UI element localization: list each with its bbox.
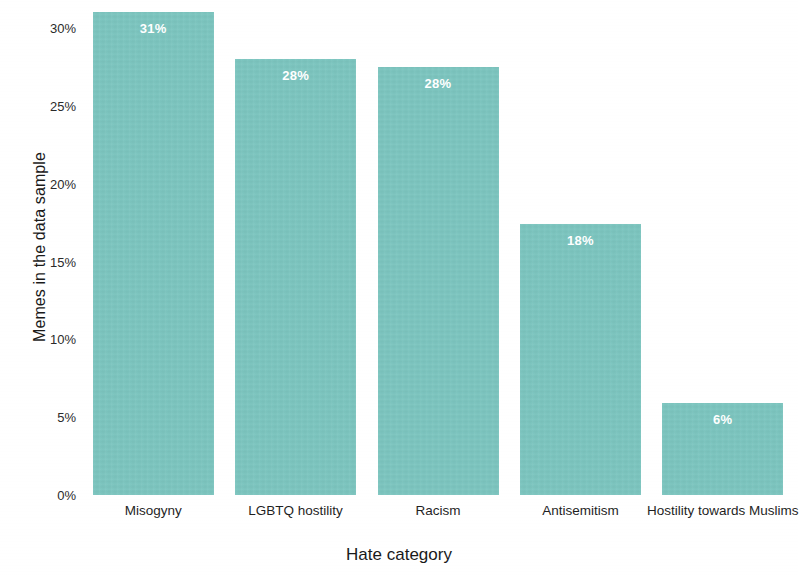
y-tick-label: 25%: [30, 98, 76, 113]
bar-value-label: 18%: [520, 233, 641, 248]
bar[interactable]: [378, 67, 499, 495]
x-axis-title: Hate category: [0, 545, 798, 565]
y-tick-label: 10%: [30, 332, 76, 347]
plot-area: 31%28%28%18%6%: [82, 0, 794, 495]
x-category-label: LGBTQ hostility: [214, 503, 376, 518]
bar[interactable]: [93, 12, 214, 495]
bar-group[interactable]: 28%: [235, 59, 356, 495]
y-axis-tick-labels: 0%5%10%15%20%25%30%: [24, 0, 76, 495]
bar[interactable]: [235, 59, 356, 495]
bar-value-label: 28%: [378, 76, 499, 91]
bar-group[interactable]: 6%: [662, 403, 783, 495]
x-category-label: Misogyny: [72, 503, 234, 518]
x-category-label: Antisemitism: [499, 503, 661, 518]
bar-group[interactable]: 18%: [520, 224, 641, 495]
y-tick-label: 15%: [30, 254, 76, 269]
bar-value-label: 6%: [662, 412, 783, 427]
bar-group[interactable]: 28%: [378, 67, 499, 495]
x-category-label: Racism: [357, 503, 519, 518]
bar[interactable]: [520, 224, 641, 495]
y-tick-label: 0%: [30, 488, 76, 503]
bar-value-label: 31%: [93, 21, 214, 36]
y-tick-label: 20%: [30, 176, 76, 191]
y-tick-label: 30%: [30, 21, 76, 36]
bar-group[interactable]: 31%: [93, 12, 214, 495]
y-tick-label: 5%: [30, 410, 76, 425]
bar-value-label: 28%: [235, 68, 356, 83]
x-category-label: Hostility towards Muslims: [642, 503, 803, 518]
